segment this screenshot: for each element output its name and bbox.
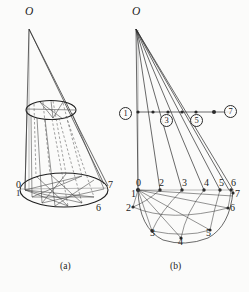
development-inner-net — [133, 207, 228, 234]
arc-label-4: 4 — [178, 237, 183, 247]
development-generatrix-fan — [136, 29, 233, 190]
baseline-label-1: 1 — [131, 189, 136, 199]
panel-a-cone — [20, 29, 108, 207]
development-element-curves — [133, 190, 231, 238]
arc-label-2: 2 — [126, 203, 131, 213]
panel-a-apex-label: O — [25, 6, 33, 18]
baseline-label-2: 2 — [159, 178, 164, 188]
cone-outline-generatrices — [25, 29, 108, 190]
circled-label-5: 5 — [190, 114, 203, 127]
baseline-label-0: 0 — [136, 178, 141, 188]
circled-label-3: 3 — [160, 114, 173, 127]
baseline-label-4: 4 — [204, 178, 209, 188]
panel-b-development — [131, 29, 234, 243]
figure-drawing: .s{fill:none;stroke:#2a2a2a;stroke-width… — [0, 0, 249, 292]
panel-b-apex-label: O — [132, 6, 140, 18]
panel-a-base-label-7: 7 — [108, 180, 113, 190]
arc-label-5: 5 — [206, 228, 211, 238]
figure-root: .s{fill:none;stroke:#2a2a2a;stroke-width… — [0, 0, 249, 292]
panel-a-base-label-1: 1 — [16, 189, 20, 198]
circled-label-7: 7 — [224, 105, 237, 118]
caption-b: (b) — [170, 262, 181, 272]
arc-label-3: 3 — [150, 228, 155, 238]
baseline-label-5: 5 — [219, 178, 224, 188]
baseline-label-3: 3 — [182, 178, 187, 188]
baseline-label-6: 6 — [231, 178, 236, 188]
panel-a-base-label-6: 6 — [96, 203, 101, 213]
caption-a: (a) — [60, 262, 71, 272]
cone-base-chords — [21, 174, 107, 206]
circled-label-1: 1 — [119, 107, 132, 120]
baseline-label-7: 7 — [235, 189, 240, 199]
arc-label-6: 6 — [230, 203, 235, 213]
